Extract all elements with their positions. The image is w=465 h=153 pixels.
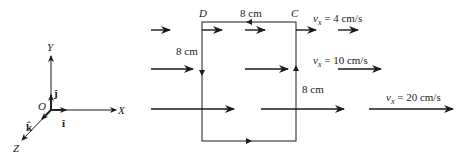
side-length-left: 8 cm: [176, 45, 198, 57]
corner-label-d: D: [198, 7, 207, 19]
corner-label-b: B: [292, 150, 299, 153]
origin-label: O: [38, 100, 46, 112]
j-hat-label: ĵ: [53, 87, 58, 99]
velocity-label-medium: vx = 10 cm/s: [313, 54, 368, 69]
z-axis-label: Z: [13, 142, 20, 153]
k-hat-label: k̂: [26, 121, 33, 133]
flow-loop-diagram: Y X Z O ĵ î k̂ D C A B 8 cm 8 cm 8 cm 8 …: [0, 0, 465, 153]
i-hat-label: î: [61, 117, 66, 129]
side-length-top: 8 cm: [240, 7, 262, 19]
loop-direction-left: [199, 70, 205, 76]
x-axis-label: X: [117, 104, 126, 116]
loop-direction-right: [293, 65, 299, 71]
y-axis-label: Y: [47, 41, 55, 53]
coordinate-axes: [22, 56, 116, 140]
corner-label-c: C: [291, 7, 299, 19]
velocity-label-fast: vx = 20 cm/s: [386, 91, 441, 106]
square-loop: [202, 22, 296, 141]
loop-direction-bottom: [246, 138, 252, 144]
side-length-right: 8 cm: [302, 83, 324, 95]
corner-label-a: A: [197, 150, 205, 153]
side-length-bottom: 8 cm: [239, 150, 261, 153]
loop-outline: [202, 22, 296, 141]
loop-direction-top: [246, 19, 252, 25]
velocity-label-slow: vx = 4 cm/s: [313, 12, 362, 27]
